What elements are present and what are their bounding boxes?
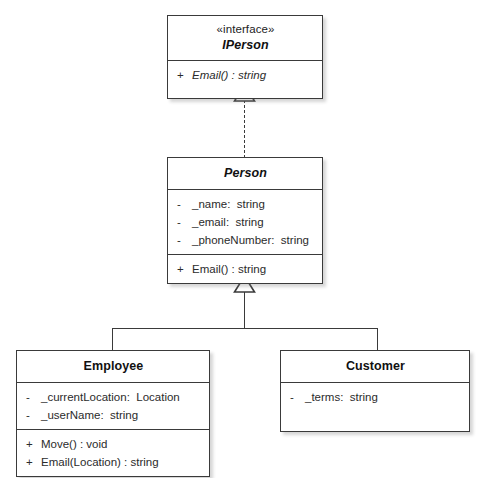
attribute-signature: _phoneNumber: string <box>192 231 314 249</box>
class-name-customer: Customer <box>290 358 461 375</box>
class-name-employee: Employee <box>26 358 201 375</box>
operation-signature: Email() : string <box>192 66 314 84</box>
attribute-row: - _terms: string <box>290 388 461 406</box>
class-header-iperson: «interface» IPerson <box>168 16 322 60</box>
attribute-row: - _userName: string <box>26 406 201 424</box>
attribute-signature: _currentLocation: Location <box>41 388 201 406</box>
operation-row: + Move() : void <box>26 435 201 453</box>
operation-signature: Email() : string <box>192 260 314 278</box>
attribute-signature: _name: string <box>192 195 314 213</box>
operation-signature: Move() : void <box>41 435 201 453</box>
class-name-person: Person <box>177 165 314 182</box>
class-box-customer[interactable]: Customer - _terms: string <box>280 350 470 432</box>
class-box-employee[interactable]: Employee - _currentLocation: Location - … <box>16 350 210 477</box>
attribute-row: - _name: string <box>177 195 314 213</box>
visibility-marker: - <box>177 195 192 213</box>
class-attributes-person: - _name: string - _email: string - _phon… <box>168 189 322 254</box>
visibility-marker: - <box>26 388 41 406</box>
attribute-signature: _userName: string <box>41 406 201 424</box>
generalization-line-employee-to-person <box>112 328 113 351</box>
class-attributes-customer: - _terms: string <box>281 382 469 431</box>
uml-class-diagram-canvas: «interface» IPerson + Email() : string P… <box>0 0 486 478</box>
class-name-iperson: IPerson <box>177 37 314 54</box>
attribute-row: - _currentLocation: Location <box>26 388 201 406</box>
class-box-iperson[interactable]: «interface» IPerson + Email() : string <box>167 15 323 99</box>
operation-row: + Email(Location) : string <box>26 453 201 471</box>
class-stereotype-iperson: «interface» <box>177 22 314 37</box>
visibility-marker: + <box>26 453 41 471</box>
generalization-trunk-line <box>244 291 245 328</box>
generalization-line-customer-to-person <box>377 328 378 351</box>
visibility-marker: + <box>26 435 41 453</box>
visibility-marker: - <box>177 231 192 249</box>
class-header-person: Person <box>168 158 322 189</box>
class-header-employee: Employee <box>17 351 209 382</box>
attribute-row: - _phoneNumber: string <box>177 231 314 249</box>
attribute-signature: _terms: string <box>305 388 461 406</box>
visibility-marker: + <box>177 66 192 84</box>
visibility-marker: - <box>290 388 305 406</box>
visibility-marker: - <box>177 213 192 231</box>
attribute-row: - _email: string <box>177 213 314 231</box>
realization-line-person-to-iperson <box>244 100 245 158</box>
visibility-marker: - <box>26 406 41 424</box>
attribute-signature: _email: string <box>192 213 314 231</box>
class-operations-person: + Email() : string <box>168 254 322 283</box>
operation-signature: Email(Location) : string <box>41 453 201 471</box>
class-operations-iperson: + Email() : string <box>168 60 322 98</box>
class-box-person[interactable]: Person - _name: string - _email: string … <box>167 157 323 284</box>
class-attributes-employee: - _currentLocation: Location - _userName… <box>17 382 209 429</box>
class-operations-employee: + Move() : void + Email(Location) : stri… <box>17 429 209 476</box>
visibility-marker: + <box>177 260 192 278</box>
operation-row: + Email() : string <box>177 260 314 278</box>
operation-row: + Email() : string <box>177 66 314 84</box>
class-header-customer: Customer <box>281 351 469 382</box>
generalization-branch-bar <box>112 328 378 329</box>
